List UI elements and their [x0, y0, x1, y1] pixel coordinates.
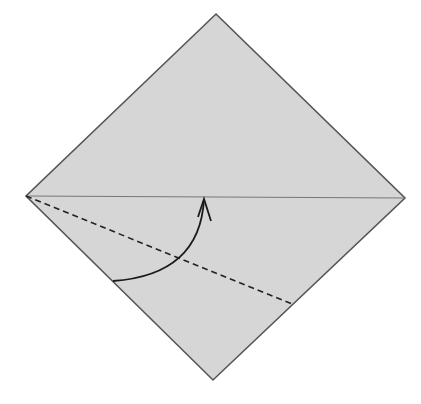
diagram-canvas [0, 0, 421, 404]
origami-diagram [0, 0, 421, 404]
